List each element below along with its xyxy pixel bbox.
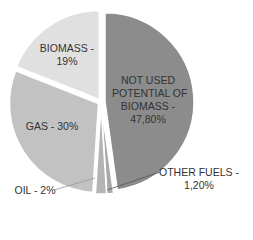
label-not-used-potential: NOT USED POTENTIAL OF BIOMASS - 47,80% — [112, 74, 184, 126]
label-biomass: BIOMASS - 19% — [36, 42, 98, 68]
label-other-fuels: OTHER FUELS - 1,20% — [158, 166, 240, 192]
label-gas: GAS - 30% — [22, 120, 82, 133]
label-oil: OIL - 2% — [10, 184, 60, 197]
